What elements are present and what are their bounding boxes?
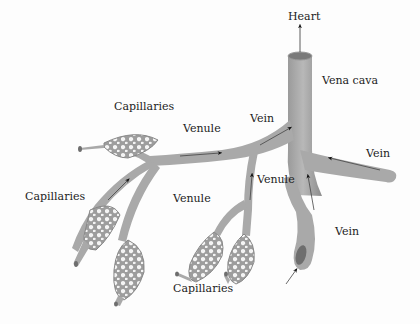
venule-right-branch <box>214 200 247 236</box>
capillary-bed-bottom-right <box>224 234 254 284</box>
venous-system-diagram: Heart Vena cava Vein Vein Vein Venule Ve… <box>0 0 420 324</box>
label-capillaries-top: Capillaries <box>114 101 174 112</box>
vessel-illustration <box>0 0 420 324</box>
label-venule-middle: Venule <box>173 193 211 204</box>
label-capillaries-left: Capillaries <box>25 191 85 202</box>
capillary-bed-lower-left <box>114 240 144 307</box>
capillary-bed-bottom-left <box>175 232 223 282</box>
label-vena-cava: Vena cava <box>322 75 378 86</box>
label-vein-right: Vein <box>366 148 390 159</box>
label-vein-bottom: Vein <box>335 226 359 237</box>
vein-main <box>150 120 294 166</box>
label-heart: Heart <box>288 11 320 22</box>
venule-right <box>242 152 258 236</box>
label-venule-right: Venule <box>257 174 295 185</box>
label-vein-top: Vein <box>250 113 274 124</box>
label-venule-top: Venule <box>183 123 221 134</box>
label-capillaries-bottom: Capillaries <box>173 283 233 294</box>
